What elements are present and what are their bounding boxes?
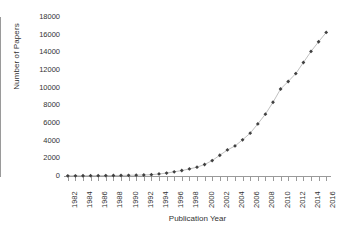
data-series-layer: [0, 0, 348, 236]
data-point-marker: [89, 174, 93, 178]
publication-year-line-chart: Number of Papers 18000160001400012000100…: [0, 0, 348, 236]
series-line: [68, 32, 326, 175]
data-point-marker: [150, 173, 154, 177]
data-point-marker: [134, 173, 138, 177]
data-point-marker: [142, 173, 146, 177]
data-point-marker: [203, 163, 207, 167]
data-point-marker: [180, 169, 184, 173]
data-point-marker: [127, 173, 131, 177]
data-point-marker: [172, 170, 176, 174]
data-point-marker: [81, 174, 85, 178]
data-point-marker: [96, 174, 100, 178]
data-point-marker: [157, 172, 161, 176]
data-point-marker: [74, 174, 78, 178]
data-point-marker: [66, 174, 70, 178]
data-point-marker: [112, 174, 116, 178]
data-point-marker: [188, 167, 192, 171]
data-point-marker: [195, 165, 199, 169]
data-point-marker: [271, 100, 275, 104]
data-point-marker: [165, 171, 169, 175]
data-point-marker: [104, 174, 108, 178]
data-point-marker: [119, 174, 123, 178]
